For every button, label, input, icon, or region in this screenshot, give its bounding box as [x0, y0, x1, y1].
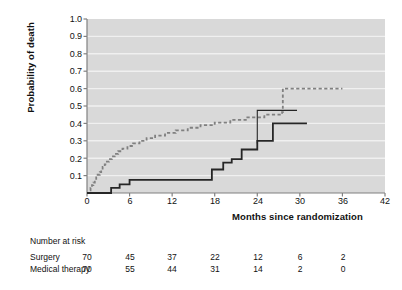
kaplan-meier-figure: Probability of death 1.0 0.9 0.8 0.7 0.6… — [0, 0, 402, 290]
plot-canvas — [0, 0, 402, 290]
